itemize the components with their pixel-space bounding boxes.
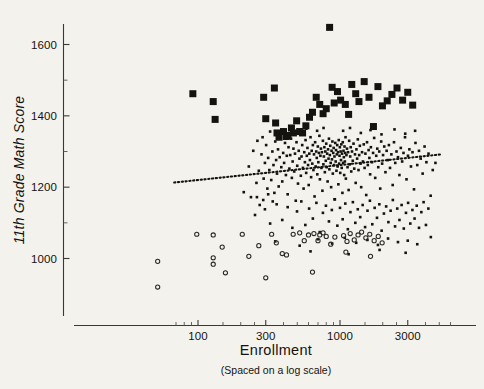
data-point-dot xyxy=(319,154,322,157)
data-point-square xyxy=(334,88,341,95)
data-point-square xyxy=(302,122,309,129)
data-point-square xyxy=(394,85,401,92)
data-point-dot xyxy=(278,156,281,159)
data-point-dot xyxy=(391,184,394,187)
data-point-dot xyxy=(281,180,284,183)
data-point-dot xyxy=(267,193,270,196)
data-point-dot xyxy=(336,144,339,147)
data-point-dot xyxy=(322,127,325,130)
data-point-dot xyxy=(359,144,362,147)
data-point-dot xyxy=(416,243,419,246)
data-point-dot xyxy=(287,146,290,149)
data-point-dot xyxy=(361,204,364,207)
data-point-dot xyxy=(291,160,294,163)
data-point-dot xyxy=(380,140,383,143)
data-point-dot xyxy=(344,202,347,205)
data-point-dot xyxy=(343,156,346,159)
data-point-dot xyxy=(262,199,265,202)
data-point-dot xyxy=(302,187,305,190)
data-point-dot xyxy=(268,169,271,172)
data-point-dot xyxy=(393,128,396,131)
data-point-dot xyxy=(361,151,364,154)
data-point-dot xyxy=(413,188,416,191)
data-point-square xyxy=(262,115,269,122)
data-point-dot xyxy=(296,164,299,167)
data-point-dot xyxy=(398,219,401,222)
data-point-dot xyxy=(316,130,319,133)
data-point-square xyxy=(323,105,330,112)
data-point-dot xyxy=(315,157,318,160)
data-point-square xyxy=(271,85,278,92)
data-point-square xyxy=(361,78,368,85)
data-point-dot xyxy=(337,183,340,186)
data-point-dot xyxy=(372,152,375,155)
data-point-dot xyxy=(343,145,346,148)
data-point-dot xyxy=(306,147,309,150)
data-point-dot xyxy=(300,174,303,177)
data-point-dot xyxy=(373,207,376,210)
data-point-dot xyxy=(342,130,345,133)
data-point-dot xyxy=(248,165,251,168)
data-point-square xyxy=(316,101,323,108)
data-point-dot xyxy=(405,212,408,215)
data-point-dot xyxy=(385,205,388,208)
data-point-dot xyxy=(406,239,409,242)
data-point-square xyxy=(399,97,406,104)
data-point-dot xyxy=(360,132,363,135)
data-point-dot xyxy=(332,152,335,155)
data-point-dot xyxy=(341,192,344,195)
data-point-dot xyxy=(275,203,278,206)
data-point-dot xyxy=(296,210,299,213)
data-point-dot xyxy=(357,169,360,172)
data-point-dot xyxy=(357,138,360,141)
data-point-dot xyxy=(285,174,288,177)
data-point-square xyxy=(342,101,349,108)
data-point-dot xyxy=(425,224,428,227)
data-point-dot xyxy=(352,201,355,204)
data-point-dot xyxy=(345,177,348,180)
data-point-dot xyxy=(270,179,273,182)
data-point-dot xyxy=(291,177,294,180)
data-point-dot xyxy=(242,191,245,194)
data-point-dot xyxy=(315,150,318,153)
data-point-dot xyxy=(256,196,259,199)
data-point-dot xyxy=(396,207,399,210)
data-point-dot xyxy=(378,249,381,252)
data-point-dot xyxy=(377,244,380,247)
x-tick-label: 100 xyxy=(188,330,208,342)
data-point-dot xyxy=(305,172,308,175)
data-point-dot xyxy=(339,146,342,149)
data-point-dot xyxy=(380,229,383,232)
data-point-dot xyxy=(400,204,403,207)
y-tick-label: 1600 xyxy=(31,39,57,51)
data-point-dot xyxy=(328,168,331,171)
data-point-dot xyxy=(400,147,403,150)
data-point-dot xyxy=(341,152,344,155)
data-point-dot xyxy=(328,137,331,140)
data-point-dot xyxy=(347,151,350,154)
data-point-dot xyxy=(347,228,350,231)
data-point-dot xyxy=(410,165,413,168)
data-point-dot xyxy=(324,171,327,174)
data-point-dot xyxy=(359,216,362,219)
data-point-dot xyxy=(350,170,353,173)
data-point-dot xyxy=(292,147,295,150)
data-point-dot xyxy=(330,186,333,189)
data-point-square xyxy=(388,91,395,98)
data-point-dot xyxy=(303,151,306,154)
data-point-dot xyxy=(405,178,408,181)
data-point-dot xyxy=(300,200,303,203)
data-point-dot xyxy=(311,162,314,165)
data-point-dot xyxy=(423,145,426,148)
data-point-square xyxy=(309,109,316,116)
data-point-dot xyxy=(356,208,359,211)
data-point-dot xyxy=(376,217,379,220)
data-point-dot xyxy=(333,198,336,201)
data-point-dot xyxy=(427,207,430,210)
data-point-dot xyxy=(373,137,376,140)
data-point-dot xyxy=(320,147,323,150)
data-point-dot xyxy=(337,139,340,142)
data-point-dot xyxy=(304,139,307,142)
data-point-dot xyxy=(383,212,386,215)
data-point-dot xyxy=(266,187,269,190)
